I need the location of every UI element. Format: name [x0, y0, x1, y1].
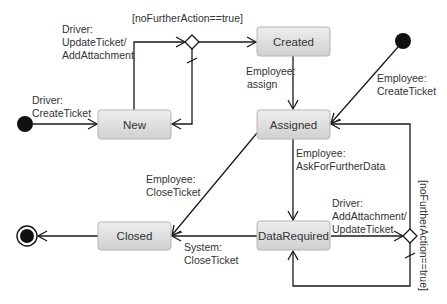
state-label-closed: Closed	[117, 230, 153, 242]
transition-closed-to-final	[38, 231, 98, 241]
decision-node-top	[185, 35, 199, 49]
label-empcreate-line1: Employee:	[377, 72, 427, 84]
transition-driver-update	[134, 37, 185, 110]
transition-employee-assign	[288, 56, 298, 109]
label-sysclose-line1: System:	[184, 241, 222, 253]
guard-right: [noFurtherAction==true]	[418, 180, 430, 291]
state-label-created: Created	[273, 36, 314, 48]
label-update-line1: Driver:	[62, 23, 93, 35]
label-driver-line2: CreateTicket	[32, 107, 91, 119]
label-empcreate-line2: CreateTicket	[377, 85, 436, 97]
state-new: New	[98, 110, 171, 139]
state-label-new: New	[123, 119, 147, 131]
transition-system-closeticket	[172, 231, 257, 241]
label-empclose-line1: Employee:	[146, 173, 196, 185]
transition-driver-createticket	[33, 119, 97, 129]
state-label-assigned: Assigned	[270, 119, 317, 131]
guard-top: [noFurtherAction==true]	[132, 12, 243, 24]
initial-node-driver	[17, 116, 33, 132]
label-add-line2: AddAttachment/	[332, 210, 407, 222]
label-update-line2: UpdateTicket/	[62, 36, 126, 48]
state-created: Created	[257, 27, 330, 56]
label-ask-line1: Employee:	[296, 147, 346, 159]
label-assign-line2: assign	[247, 78, 278, 90]
transition-else-to-new	[172, 49, 197, 129]
state-diagram: Driver: CreateTicket Driver: UpdateTicke…	[0, 0, 447, 304]
decision-node-right	[403, 229, 417, 243]
label-ask-line2: AskForFurtherData	[296, 160, 385, 172]
label-add-line3: UpdateTicket	[332, 223, 394, 235]
label-add-line1: Driver:	[332, 197, 363, 209]
initial-node-employee	[395, 33, 411, 49]
state-label-datarequired: DataRequired	[258, 230, 329, 242]
final-node	[17, 226, 37, 246]
transition-guard-to-created	[199, 37, 256, 47]
label-assign-line1: Employee:	[246, 65, 296, 77]
state-datarequired: DataRequired	[257, 221, 330, 250]
state-closed: Closed	[98, 222, 171, 250]
state-assigned: Assigned	[257, 110, 330, 139]
label-empclose-line2: CloseTicket	[146, 186, 201, 198]
label-update-line3: AddAttachment	[62, 49, 134, 61]
label-driver-line1: Driver:	[32, 94, 63, 106]
label-sysclose-line2: CloseTicket	[184, 254, 239, 266]
